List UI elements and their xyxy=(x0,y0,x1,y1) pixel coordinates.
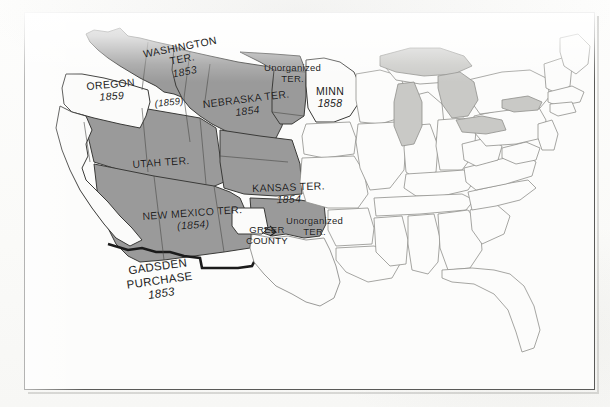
region-kansas-territory xyxy=(220,130,302,196)
state-connecticut-ri xyxy=(550,102,576,116)
map-svg xyxy=(24,12,595,390)
state-missouri xyxy=(300,156,368,208)
state-new-jersey xyxy=(538,120,558,150)
region-greer-county xyxy=(232,208,268,234)
lake-michigan xyxy=(394,82,422,146)
state-minnesota xyxy=(306,58,360,122)
state-florida xyxy=(442,268,540,352)
state-arkansas xyxy=(328,208,374,246)
state-maryland xyxy=(502,142,540,164)
state-alabama xyxy=(408,214,440,274)
map-canvas: WASHINGTONTER.1853OREGON1859(1859)NEBRAS… xyxy=(24,12,595,390)
state-texas xyxy=(250,234,340,306)
state-iowa xyxy=(302,122,356,158)
map-page: WASHINGTONTER.1853OREGON1859(1859)NEBRAS… xyxy=(0,0,610,407)
